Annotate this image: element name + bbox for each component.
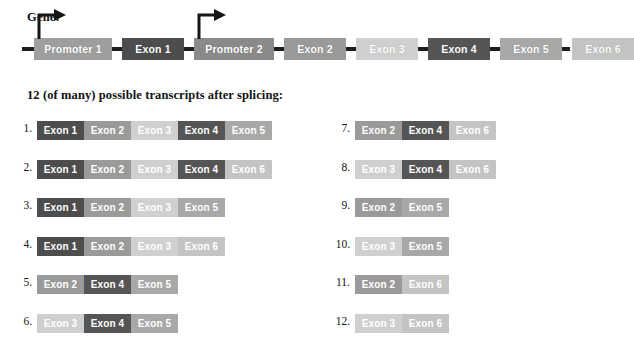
transcript-bar: Exon 3Exon 6 (355, 314, 449, 333)
exon-segment-exon-5: Exon 5 (402, 198, 449, 217)
exon-segment-exon-2: Exon 2 (355, 121, 402, 140)
exon-segment-exon-5: Exon 5 (131, 314, 178, 333)
exon-segment-exon-5: Exon 5 (402, 237, 449, 256)
transcript-bar: Exon 1Exon 2Exon 3Exon 5 (37, 198, 225, 217)
exon-segment-exon-2: Exon 2 (37, 275, 84, 294)
transcript-number: 4. (23, 238, 32, 250)
transcript-bar: Exon 1Exon 2Exon 3Exon 4Exon 5 (37, 121, 272, 140)
exon-segment-exon-3: Exon 3 (131, 237, 178, 256)
exon-segment-exon-2: Exon 2 (84, 237, 131, 256)
exon-segment-exon-2: Exon 2 (355, 275, 402, 294)
exon-segment-exon-5: Exon 5 (178, 198, 225, 217)
transcript-row: 1.Exon 1Exon 2Exon 3Exon 4Exon 5 (37, 121, 272, 140)
transcript-row: 10.Exon 3Exon 5 (355, 237, 449, 256)
exon-segment-exon-3: Exon 3 (355, 160, 402, 179)
exon-segment-exon-3: Exon 3 (131, 160, 178, 179)
exon-segment-exon-6: Exon 6 (178, 237, 225, 256)
transcript-bar: Exon 2Exon 5 (355, 198, 449, 217)
transcript-row: 6.Exon 3Exon 4Exon 5 (37, 314, 178, 333)
transcript-number: 6. (23, 315, 32, 327)
exon-segment-exon-6: Exon 6 (225, 160, 272, 179)
transcript-bar: Exon 3Exon 5 (355, 237, 449, 256)
transcript-row: 7.Exon 2Exon 4Exon 6 (355, 121, 496, 140)
transcript-row: 12.Exon 3Exon 6 (355, 314, 449, 333)
transcript-bar: Exon 3Exon 4Exon 6 (355, 160, 496, 179)
transcript-bar: Exon 2Exon 4Exon 5 (37, 275, 178, 294)
transcript-number: 8. (341, 161, 350, 173)
exon-segment-exon-4: Exon 4 (84, 275, 131, 294)
exon-segment-exon-6: Exon 6 (402, 275, 449, 294)
exon-segment-exon-6: Exon 6 (449, 121, 496, 140)
exon-segment-exon-3: Exon 3 (37, 314, 84, 333)
transcript-row: 8.Exon 3Exon 4Exon 6 (355, 160, 496, 179)
transcript-bar: Exon 1Exon 2Exon 3Exon 6 (37, 237, 225, 256)
transcript-bar: Exon 3Exon 4Exon 5 (37, 314, 178, 333)
exon-segment-exon-6: Exon 6 (402, 314, 449, 333)
transcript-number: 1. (23, 122, 32, 134)
exon-segment-exon-3: Exon 3 (355, 314, 402, 333)
transcript-bar: Exon 1Exon 2Exon 3Exon 4Exon 6 (37, 160, 272, 179)
transcript-row: 9.Exon 2Exon 5 (355, 198, 449, 217)
exon-segment-exon-2: Exon 2 (84, 160, 131, 179)
exon-segment-exon-5: Exon 5 (225, 121, 272, 140)
exon-segment-exon-1: Exon 1 (37, 198, 84, 217)
transcript-number: 12. (336, 315, 350, 327)
exon-segment-exon-2: Exon 2 (84, 198, 131, 217)
transcript-number: 3. (23, 199, 32, 211)
exon-segment-exon-4: Exon 4 (178, 160, 225, 179)
exon-segment-exon-3: Exon 3 (355, 237, 402, 256)
exon-segment-exon-6: Exon 6 (449, 160, 496, 179)
exon-segment-exon-2: Exon 2 (355, 198, 402, 217)
transcript-number: 2. (23, 161, 32, 173)
transcript-number: 7. (341, 122, 350, 134)
exon-segment-exon-3: Exon 3 (131, 121, 178, 140)
exon-segment-exon-4: Exon 4 (178, 121, 225, 140)
exon-segment-exon-4: Exon 4 (402, 160, 449, 179)
transcript-number: 5. (23, 276, 32, 288)
transcript-bar: Exon 2Exon 6 (355, 275, 449, 294)
transcript-bar: Exon 2Exon 4Exon 6 (355, 121, 496, 140)
transcript-row: 4.Exon 1Exon 2Exon 3Exon 6 (37, 237, 225, 256)
exon-segment-exon-3: Exon 3 (131, 198, 178, 217)
gene-exon-6-label: Exon 6 (585, 43, 621, 55)
exon-segment-exon-4: Exon 4 (402, 121, 449, 140)
transcript-row: 11.Exon 2Exon 6 (355, 275, 449, 294)
transcript-row: 5.Exon 2Exon 4Exon 5 (37, 275, 178, 294)
transcript-row: 3.Exon 1Exon 2Exon 3Exon 5 (37, 198, 225, 217)
exon-segment-exon-1: Exon 1 (37, 160, 84, 179)
exon-segment-exon-5: Exon 5 (131, 275, 178, 294)
transcript-number: 9. (341, 199, 350, 211)
transcript-row: 2.Exon 1Exon 2Exon 3Exon 4Exon 6 (37, 160, 272, 179)
transcript-number: 10. (336, 238, 350, 250)
transcript-number: 11. (336, 276, 350, 288)
exon-segment-exon-1: Exon 1 (37, 237, 84, 256)
exon-segment-exon-2: Exon 2 (84, 121, 131, 140)
exon-segment-exon-1: Exon 1 (37, 121, 84, 140)
exon-segment-exon-4: Exon 4 (84, 314, 131, 333)
